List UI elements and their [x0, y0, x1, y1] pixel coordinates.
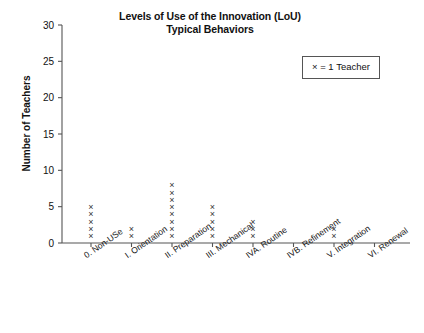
y-axis-tick-label: 10 [43, 165, 55, 176]
data-point-marker: × [210, 202, 215, 212]
legend: × = 1 Teacher [302, 56, 380, 79]
y-axis-tick-label: 5 [48, 201, 54, 212]
legend-entry-label: × = 1 Teacher [312, 61, 370, 72]
plot-area: 051015202530××××××××××××××××××××××××× [0, 0, 424, 333]
y-axis-tick-label: 20 [43, 92, 55, 103]
y-axis-tick-label: 15 [43, 129, 55, 140]
data-point-marker: × [88, 202, 93, 212]
y-axis-tick-label: 0 [48, 238, 54, 249]
y-axis-tick-label: 30 [43, 20, 55, 31]
y-axis-tick-label: 25 [43, 56, 55, 67]
data-point-marker: × [129, 224, 134, 234]
chart-container: Levels of Use of the Innovation (LoU) Ty… [0, 0, 424, 333]
data-point-marker: × [169, 180, 174, 190]
